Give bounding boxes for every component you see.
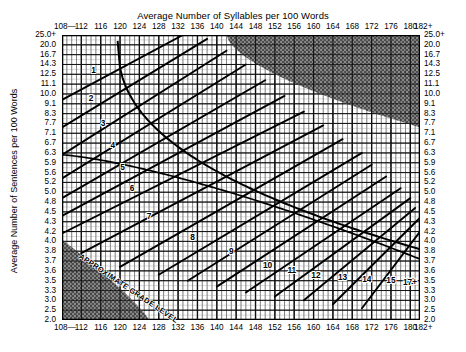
x-tick-112: 112: [75, 323, 88, 332]
y-tick-45: 4.5: [45, 207, 56, 216]
y-tick-91: 9.1: [45, 99, 56, 108]
y-tick-250: 25.0+: [424, 30, 445, 39]
y-tick-40: 4.0: [45, 236, 56, 245]
y-tick-25: 2.5: [45, 305, 56, 314]
x-tick-108: 108—: [54, 323, 76, 332]
y-tick-71: 7.1: [45, 128, 56, 137]
x-tick-152: 152: [268, 323, 282, 332]
x-tick-164: 164: [326, 323, 340, 332]
x-tick-144: 144: [229, 323, 243, 332]
plot-area: 1234567891011121314151617+ APPROXIMATE G…: [62, 35, 420, 320]
x-tick-148: 148: [249, 323, 263, 332]
y-tick-50: 5.0: [45, 187, 56, 196]
y-tick-111: 11.1: [41, 79, 56, 88]
y-tick-250: 25.0+: [35, 30, 56, 39]
x-tick-136: 136: [191, 22, 205, 31]
y-tick-52: 5.2: [45, 177, 56, 186]
y-tick-125: 12.5: [40, 69, 56, 78]
x-tick-132: 132: [171, 323, 185, 332]
x-tick-176: 176: [384, 323, 398, 332]
y-tick-25: 2.5: [424, 305, 435, 314]
x-tick-120: 120: [113, 22, 127, 31]
y-tick-43: 4.3: [424, 217, 435, 226]
plot-svg: [62, 35, 420, 320]
y-tick-33: 3.3: [424, 286, 435, 295]
x-tick-156: 156: [287, 323, 301, 332]
fry-readability-graph: Average Number of Syllables per 100 Word…: [0, 0, 466, 352]
y-tick-35: 3.5: [45, 276, 56, 285]
x-tick-176: 176: [384, 22, 398, 31]
y-tick-200: 20.0: [40, 40, 56, 49]
x-tick-160: 160: [307, 22, 321, 31]
y-tick-45: 4.5: [424, 207, 435, 216]
y-tick-20: 2.0: [424, 315, 435, 324]
y-tick-52: 5.2: [424, 177, 435, 186]
y-tick-33: 3.3: [45, 286, 56, 295]
y-tick-30: 3.0: [45, 295, 56, 304]
x-tick-108: 108—: [54, 22, 76, 31]
x-tick-168: 168: [345, 323, 359, 332]
y-tick-100: 10.0: [424, 89, 440, 98]
x-tick-160: 160: [307, 323, 321, 332]
y-axis-ticks-right: 25.0+20.016.714.312.511.110.09.18.37.77.…: [424, 35, 454, 320]
x-tick-136: 136: [191, 323, 205, 332]
x-tick-128: 128: [152, 22, 166, 31]
x-axis-ticks-bottom: 108—112116120124128132136140144148152156…: [62, 323, 420, 335]
y-tick-38: 3.8: [45, 246, 56, 255]
y-tick-77: 7.7: [45, 118, 56, 127]
x-tick-124: 124: [133, 323, 147, 332]
y-tick-71: 7.1: [424, 128, 435, 137]
y-tick-36: 3.6: [45, 266, 56, 275]
x-tick-116: 116: [94, 323, 107, 332]
y-tick-125: 12.5: [424, 69, 440, 78]
y-tick-100: 10.0: [40, 89, 56, 98]
y-tick-91: 9.1: [424, 99, 435, 108]
x-tick-140: 140: [210, 22, 224, 31]
x-axis-ticks-top: 108—112116120124128132136140144148152156…: [62, 22, 420, 34]
y-tick-67: 6.7: [424, 138, 435, 147]
y-tick-43: 4.3: [45, 217, 56, 226]
y-tick-59: 5.9: [45, 158, 56, 167]
y-tick-63: 6.3: [424, 148, 435, 157]
y-axis-ticks-left: 25.0+20.016.714.312.511.110.09.18.37.77.…: [26, 35, 56, 320]
y-tick-143: 14.3: [424, 59, 440, 68]
y-tick-200: 20.0: [424, 40, 440, 49]
chart-title: Average Number of Syllables per 100 Word…: [0, 10, 466, 21]
y-tick-35: 3.5: [424, 276, 435, 285]
y-tick-48: 4.8: [45, 197, 56, 206]
x-tick-124: 124: [133, 22, 147, 31]
x-tick-116: 116: [94, 22, 107, 31]
y-tick-167: 16.7: [40, 50, 56, 59]
x-tick-172: 172: [365, 22, 379, 31]
y-tick-67: 6.7: [45, 138, 56, 147]
y-tick-59: 5.9: [424, 158, 435, 167]
y-tick-40: 4.0: [424, 236, 435, 245]
y-tick-48: 4.8: [424, 197, 435, 206]
x-tick-148: 148: [249, 22, 263, 31]
x-tick-112: 112: [75, 22, 88, 31]
x-tick-156: 156: [287, 22, 301, 31]
y-tick-167: 16.7: [424, 50, 440, 59]
y-tick-30: 3.0: [424, 295, 435, 304]
y-tick-38: 3.8: [424, 246, 435, 255]
x-tick-164: 164: [326, 22, 340, 31]
y-tick-83: 8.3: [424, 109, 435, 118]
y-tick-50: 5.0: [424, 187, 435, 196]
y-tick-56: 5.6: [45, 168, 56, 177]
y-tick-42: 4.2: [45, 227, 56, 236]
y-tick-56: 5.6: [424, 168, 435, 177]
y-tick-83: 8.3: [45, 109, 56, 118]
x-tick-172: 172: [365, 323, 379, 332]
y-tick-143: 14.3: [40, 59, 56, 68]
y-tick-37: 3.7: [45, 256, 56, 265]
x-tick-132: 132: [171, 22, 185, 31]
y-tick-63: 6.3: [45, 148, 56, 157]
x-tick-120: 120: [113, 323, 127, 332]
y-tick-42: 4.2: [424, 227, 435, 236]
y-tick-20: 2.0: [45, 315, 56, 324]
x-tick-152: 152: [268, 22, 282, 31]
y-axis-title: Average Number of Sentences per 100 Word…: [9, 81, 19, 281]
x-tick-144: 144: [229, 22, 243, 31]
y-tick-77: 7.7: [424, 118, 435, 127]
x-tick-128: 128: [152, 323, 166, 332]
